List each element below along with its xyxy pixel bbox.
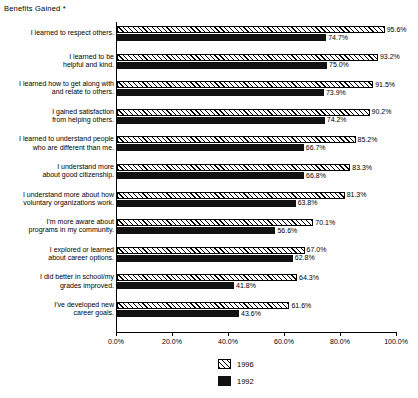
bar-row: I learned to be helpful and kind.93.2%75…	[0, 54, 418, 82]
bar-1992	[117, 310, 239, 317]
axis-tick-label: 20.0%	[162, 338, 182, 345]
bar-1992	[117, 117, 325, 124]
axis-tick-mark	[396, 332, 397, 336]
legend-label-1992: 1992	[237, 377, 254, 386]
chart-legend: 1996 1992	[218, 358, 338, 392]
bar-row: I learned how to get along with and rela…	[0, 81, 418, 109]
bar-value-1996: 64.3%	[299, 274, 319, 281]
category-label: I learned to understand people who are d…	[0, 135, 114, 151]
category-label: I'm more aware about programs in my comm…	[0, 218, 114, 234]
category-label: I learned to be helpful and kind.	[0, 53, 114, 69]
axis-tick-label: 60.0%	[274, 338, 294, 345]
category-label: I understand more about how voluntary or…	[0, 191, 114, 207]
bar-1996	[117, 219, 313, 226]
bar-1992	[117, 200, 296, 207]
bar-value-1996: 93.2%	[380, 53, 400, 60]
bar-value-1992: 73.9%	[326, 89, 346, 96]
legend-swatch-1992-icon	[218, 376, 231, 386]
axis-tick-mark	[284, 332, 285, 336]
bar-value-1996: 90.2%	[372, 108, 392, 115]
bar-1996	[117, 247, 305, 254]
bar-1992	[117, 172, 304, 179]
bar-value-1996: 85.2%	[358, 136, 378, 143]
bar-1996	[117, 54, 378, 61]
bar-value-1996: 70.1%	[315, 219, 335, 226]
bar-value-1996: 67.0%	[307, 246, 327, 253]
bar-value-1992: 74.2%	[327, 116, 347, 123]
legend-item-1992: 1992	[218, 375, 338, 392]
bar-value-1992: 63.8%	[298, 199, 318, 206]
bar-1996	[117, 109, 370, 116]
category-label: I explored or learned about career optio…	[0, 246, 114, 262]
axis-tick-label: 0.0%	[108, 338, 124, 345]
bar-value-1992: 56.6%	[277, 227, 297, 234]
bar-1992	[117, 227, 275, 234]
axis-tick-mark	[172, 332, 173, 336]
bar-value-1992: 75.0%	[329, 61, 349, 68]
bar-1992	[117, 62, 327, 69]
category-label: I've developed new career goals.	[0, 301, 114, 317]
bar-1996	[117, 192, 345, 199]
axis-tick-mark	[116, 332, 117, 336]
legend-item-1996: 1996	[218, 358, 338, 375]
axis-tick-label: 80.0%	[330, 338, 350, 345]
bar-row: I did better in school/my grades improve…	[0, 274, 418, 302]
bar-value-1996: 95.6%	[387, 26, 407, 33]
legend-swatch-1996-icon	[218, 359, 231, 369]
bar-value-1992: 66.7%	[306, 144, 326, 151]
bar-value-1992: 43.6%	[241, 310, 261, 317]
category-label: I understand more about good citizenship…	[0, 163, 114, 179]
bar-row: I understand more about good citizenship…	[0, 164, 418, 192]
bar-1992	[117, 144, 304, 151]
bar-value-1996: 81.3%	[347, 191, 367, 198]
bar-row: I've developed new career goals.61.6%43.…	[0, 302, 418, 330]
category-axis-line	[116, 332, 396, 333]
bar-1992	[117, 255, 293, 262]
chart-title: Benefits Gained *	[4, 4, 66, 13]
bar-value-1996: 83.3%	[352, 164, 372, 171]
bar-value-1992: 62.8%	[295, 254, 315, 261]
bar-1996	[117, 81, 373, 88]
bar-value-1992: 74.7%	[328, 34, 348, 41]
bar-row: I understand more about how voluntary or…	[0, 192, 418, 220]
bar-row: I'm more aware about programs in my comm…	[0, 219, 418, 247]
axis-tick-label: 100.0%	[384, 338, 408, 345]
bar-1996	[117, 302, 289, 309]
bar-1992	[117, 34, 326, 41]
bar-value-1996: 91.5%	[375, 81, 395, 88]
bar-1992	[117, 282, 234, 289]
bar-row: I explored or learned about career optio…	[0, 247, 418, 275]
axis-tick-mark	[228, 332, 229, 336]
category-label: I did better in school/my grades improve…	[0, 273, 114, 289]
axis-tick-label: 40.0%	[218, 338, 238, 345]
bar-1996	[117, 274, 297, 281]
bar-value-1992: 41.8%	[236, 282, 256, 289]
category-label: I learned how to get along with and rela…	[0, 80, 114, 96]
bar-1996	[117, 136, 356, 143]
bar-1992	[117, 89, 324, 96]
category-label: I gained satisfaction from helping other…	[0, 108, 114, 124]
category-label: I learned to respect others.	[0, 29, 114, 37]
bar-1996	[117, 164, 350, 171]
bar-1996	[117, 26, 385, 33]
bar-row: I learned to understand people who are d…	[0, 136, 418, 164]
bar-row: I learned to respect others.95.6%74.7%	[0, 26, 418, 54]
bar-value-1996: 61.6%	[291, 302, 311, 309]
axis-tick-mark	[340, 332, 341, 336]
bar-row: I gained satisfaction from helping other…	[0, 109, 418, 137]
legend-label-1996: 1996	[237, 360, 254, 369]
benefits-gained-bar-chart: Benefits Gained * 0.0%20.0%40.0%60.0%80.…	[0, 0, 418, 398]
bar-value-1992: 66.8%	[306, 172, 326, 179]
